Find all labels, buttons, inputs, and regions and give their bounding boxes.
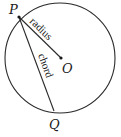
radius-label: radius xyxy=(28,15,56,42)
label-q: Q xyxy=(49,117,60,132)
label-p: P xyxy=(8,2,18,17)
point-p-dot xyxy=(17,15,20,18)
label-o: O xyxy=(62,61,73,76)
chord-label: chord xyxy=(36,52,56,80)
point-o-dot xyxy=(59,56,62,59)
circle-diagram: P O Q radius chord xyxy=(0,0,121,137)
